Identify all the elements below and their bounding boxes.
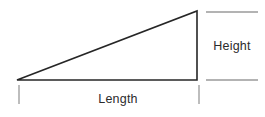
length-label: Length [38, 92, 198, 106]
height-label: Height [206, 39, 258, 53]
right-triangle-shape [17, 11, 197, 80]
triangle-dimension-diagram: Height Length [0, 0, 265, 117]
